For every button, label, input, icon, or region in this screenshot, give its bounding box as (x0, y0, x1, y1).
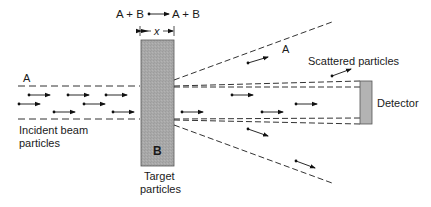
scatter-cone-upper (174, 22, 332, 80)
particle-arrow-icon (247, 128, 268, 136)
incident-beam-label-line1: Incident beam (19, 124, 88, 136)
scattered-label-A: A (282, 43, 290, 55)
particle-arrow-icon (295, 103, 317, 106)
transmitted-beam-lines (174, 81, 360, 124)
scattered-particles-label: Scattered particles (308, 55, 400, 67)
particle-arrow-icon (295, 160, 315, 168)
incident-beam-label-line2: particles (19, 137, 60, 149)
thickness-dimension: x (140, 25, 174, 37)
reaction-equation: A + B A + B (116, 8, 200, 20)
particle-arrow-icon (105, 94, 127, 97)
particle-arrow-icon (112, 111, 134, 114)
scattered-particles (181, 57, 351, 168)
particle-arrow-icon (53, 111, 75, 114)
scattering-diagram: A + B A + B x A Incident beam particles … (0, 0, 431, 207)
detector-block (360, 81, 372, 124)
particle-arrow-icon (67, 94, 89, 97)
particle-arrow-icon (83, 103, 105, 106)
particle-arrow-icon (261, 111, 283, 114)
scatter-cone-lower (174, 125, 332, 183)
particle-arrow-icon (28, 94, 50, 97)
particle-arrow-icon (231, 94, 253, 97)
target-label-line2: particles (140, 183, 181, 195)
particle-arrow-icon (18, 103, 40, 106)
particle-arrow-icon (331, 69, 351, 77)
beam-label-A: A (23, 72, 31, 84)
reaction-right: A + B (172, 8, 200, 20)
particle-arrow-icon (181, 111, 203, 114)
particle-arrow-icon (247, 57, 268, 64)
incident-particles (18, 94, 134, 114)
target-block-label: B (153, 144, 162, 158)
detector-label: Detector (377, 97, 419, 109)
thickness-label: x (153, 25, 160, 37)
reaction-left: A + B (116, 8, 144, 20)
target-label-line1: Target (144, 170, 175, 182)
